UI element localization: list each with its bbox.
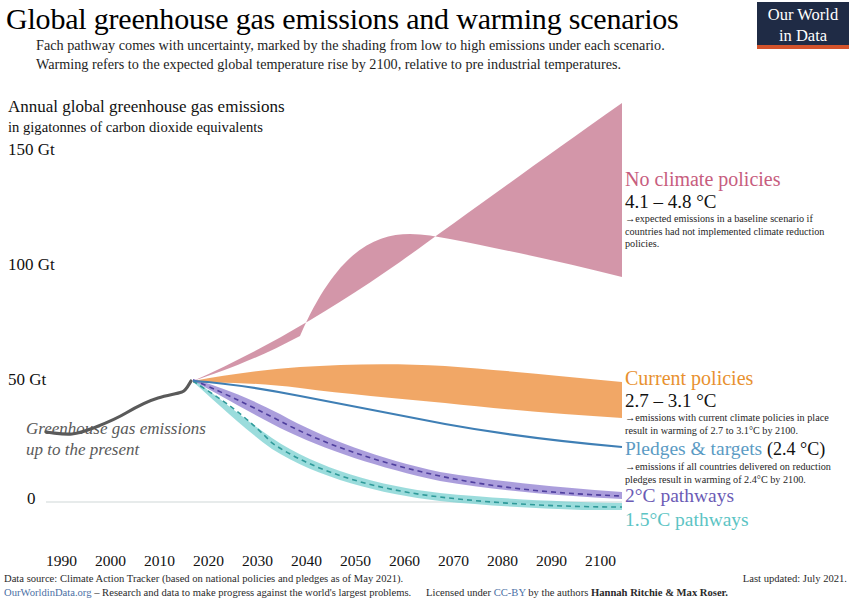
footer-tagline: – Research and data to make progress aga…	[92, 587, 412, 598]
annotation-pledges-targets: Pledges & targets (2.4 °C) →emissions if…	[625, 437, 845, 486]
cc-by-link[interactable]: CC-BY	[494, 587, 526, 598]
annotation-2c-pathways: 2°C pathways	[625, 484, 734, 507]
x-tick-1990: 1990	[46, 552, 77, 570]
pledges-label-text: Pledges & targets	[625, 438, 767, 459]
chart-footer: Data source: Climate Action Tracker (bas…	[4, 572, 849, 600]
line-historical-emissions	[46, 381, 191, 434]
annotation-pledges-targets-desc: →emissions if all countries delivered on…	[625, 461, 845, 486]
footer-row-2: OurWorldinData.org – Research and data t…	[4, 586, 849, 600]
annotation-no-climate-policies-desc: →expected emissions in a baseline scenar…	[625, 213, 845, 251]
license-post: by the authors	[526, 587, 591, 598]
license-pre: Licensed under	[426, 587, 494, 598]
annotation-current-policies: Current policies 2.7 – 3.1 °C →emissions…	[625, 367, 845, 437]
footer-site-line: OurWorldinData.org – Research and data t…	[4, 586, 411, 600]
annotation-2c-pathways-label: 2°C pathways	[625, 484, 734, 507]
x-tick-2000: 2000	[95, 552, 126, 570]
pledges-label-temp: (2.4 °C)	[767, 439, 825, 459]
annotation-current-policies-temp: 2.7 – 3.1 °C	[625, 390, 845, 412]
annotation-no-climate-policies-label: No climate policies	[625, 168, 845, 191]
x-tick-2070: 2070	[438, 552, 469, 570]
x-tick-2030: 2030	[242, 552, 273, 570]
footer-row-1: Data source: Climate Action Tracker (bas…	[4, 572, 849, 586]
annotation-no-climate-policies: No climate policies 4.1 – 4.8 °C →expect…	[625, 168, 845, 251]
x-tick-2050: 2050	[340, 552, 371, 570]
annotation-pledges-targets-label: Pledges & targets (2.4 °C)	[625, 437, 845, 461]
x-tick-2090: 2090	[536, 552, 567, 570]
annotation-current-policies-label: Current policies	[625, 367, 845, 390]
annotation-current-policies-desc: →emissions with current climate policies…	[625, 412, 845, 437]
annotation-no-climate-policies-temp: 4.1 – 4.8 °C	[625, 191, 845, 213]
footer-last-updated: Last updated: July 2021.	[743, 572, 847, 586]
owid-site-link[interactable]: OurWorldinData.org	[4, 587, 92, 598]
x-tick-2040: 2040	[291, 552, 322, 570]
chart-page: Global greenhouse gas emissions and warm…	[0, 0, 851, 607]
annotation-1-5c-pathways: 1.5°C pathways	[625, 508, 749, 531]
footer-data-source: Data source: Climate Action Tracker (bas…	[4, 572, 403, 586]
footer-license-line: Licensed under CC-BY by the authors Hann…	[426, 586, 728, 600]
annotation-1-5c-pathways-label: 1.5°C pathways	[625, 508, 749, 531]
x-tick-2080: 2080	[487, 552, 518, 570]
footer-authors: Hannah Ritchie & Max Roser.	[591, 587, 728, 598]
x-tick-2060: 2060	[389, 552, 420, 570]
band-no-climate-policies	[193, 103, 622, 381]
x-tick-2010: 2010	[144, 552, 175, 570]
x-tick-2020: 2020	[193, 552, 224, 570]
x-tick-2100: 2100	[585, 552, 616, 570]
